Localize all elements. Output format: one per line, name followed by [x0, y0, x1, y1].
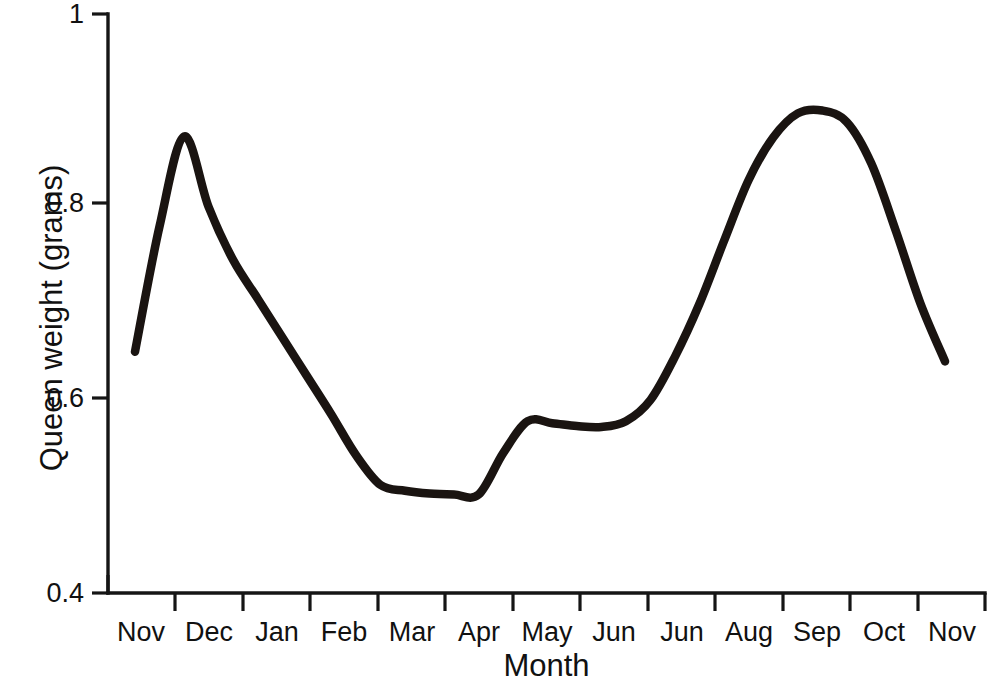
x-tick-label-may: May — [521, 619, 572, 646]
x-tick-label-dec: Dec — [185, 619, 233, 646]
data-curve-queen-weight — [135, 110, 945, 498]
x-tick-label-apr: Apr — [458, 619, 500, 646]
y-axis-ticks — [92, 14, 108, 593]
x-tick-label-jul: Jun — [660, 619, 704, 646]
x-tick-label-jan: Jan — [255, 619, 299, 646]
x-axis-title: Month — [108, 648, 985, 684]
x-tick-label-feb: Feb — [321, 619, 368, 646]
x-tick-label-oct: Oct — [863, 619, 905, 646]
x-tick-label-aug: Aug — [725, 619, 773, 646]
x-tick-label-nov-end: Nov — [928, 619, 976, 646]
x-tick-label-sep: Sep — [793, 619, 841, 646]
chart-figure: 0.4 0.6 0.8 1 Nov Dec Jan Feb Mar Apr Ma… — [0, 0, 996, 691]
x-tick-label-mar: Mar — [389, 619, 436, 646]
x-tick-label-nov-start: Nov — [117, 619, 165, 646]
y-tick-label-0: 0.4 — [0, 580, 84, 607]
y-tick-label-3: 1 — [0, 1, 84, 28]
line-chart-plot — [0, 0, 996, 691]
y-axis-title: Queen weight (grams) — [34, 58, 70, 578]
x-tick-label-jun: Jun — [592, 619, 636, 646]
